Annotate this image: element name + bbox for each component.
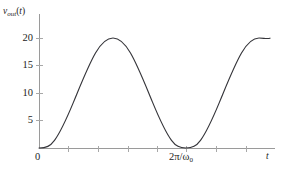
y-tick-label-5: 5 [11,115,33,126]
y-axis-label-close: ) [22,6,25,16]
omega-subscript: 0 [189,156,193,164]
chart-figure: vout(t) 20 15 10 5 0 2π/ω0 t [0,0,283,172]
signal-curve [39,38,270,148]
x-tick-label-period: 2π/ω0 [169,152,193,164]
x-axis-label: t [266,152,269,162]
plot-svg [0,0,283,172]
y-axis-label: vout(t) [3,7,25,18]
y-tick-label-10: 10 [11,88,33,99]
y-tick-label-15: 15 [11,60,33,71]
y-tick-label-20: 20 [11,33,33,44]
y-axis-label-subscript: out [7,10,16,18]
x-tick-label-origin: 0 [35,152,40,163]
